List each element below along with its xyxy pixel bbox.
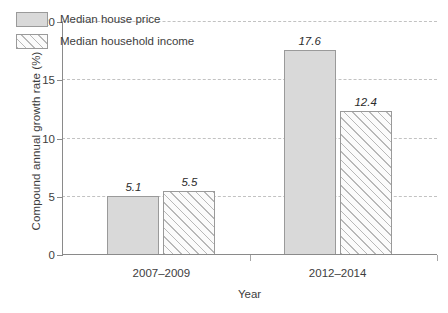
- legend-item-median-household-income: Median household income: [16, 30, 194, 52]
- legend-swatch-hatched: [16, 34, 48, 49]
- x-tick-mark: [250, 255, 251, 261]
- bar-value-label: 5.5: [181, 176, 197, 188]
- y-tick-label: 0: [49, 249, 55, 261]
- legend-item-median-house-price: Median house price: [16, 8, 194, 30]
- bar-value-label: 17.6: [298, 35, 320, 47]
- bar-value-label: 12.4: [354, 96, 376, 108]
- y-tick-label: 15: [42, 74, 55, 86]
- y-axis-title: Compound annual growth rate (%): [30, 26, 42, 256]
- y-tick-label: 10: [42, 133, 55, 145]
- legend: Median house price Median household inco…: [16, 8, 194, 52]
- x-axis-spine: [62, 254, 437, 256]
- bar: 12.4: [340, 111, 392, 255]
- x-tick-label: 2012–2014: [309, 267, 367, 279]
- gridline: [62, 79, 437, 80]
- legend-label-median-house-price: Median house price: [60, 13, 160, 25]
- y-tick-label: 5: [49, 191, 55, 203]
- x-tick-mark: [437, 255, 438, 261]
- x-axis-title: Year: [62, 288, 437, 300]
- bar: 5.1: [107, 196, 159, 255]
- x-tick-label: 2007–2009: [133, 267, 191, 279]
- legend-swatch-solid: [16, 12, 48, 27]
- y-axis-spine: [62, 22, 63, 255]
- bar-value-label: 5.1: [125, 181, 141, 193]
- legend-label-median-household-income: Median household income: [60, 35, 194, 47]
- bar-chart: Compound annual growth rate (%) 05101520…: [0, 0, 448, 313]
- y-tick-mark: [57, 255, 63, 256]
- bar: 5.5: [163, 191, 215, 255]
- bar: 17.6: [284, 50, 336, 255]
- plot-area: 05101520 5.15.517.612.4 2007–20092012–20…: [62, 22, 437, 255]
